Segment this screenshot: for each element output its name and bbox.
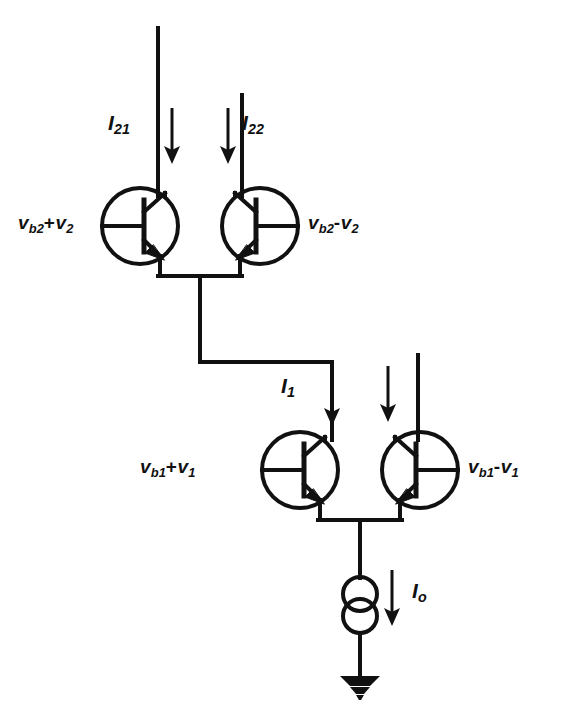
current-io-sub: o — [418, 589, 427, 605]
lower-left-base-v: v — [140, 456, 151, 477]
upper-left-term-v: v — [55, 212, 66, 233]
transistor-q11-collector-lead — [304, 437, 325, 456]
upper-left-base-op: + — [44, 212, 56, 233]
upper-left-base-v: v — [18, 212, 29, 233]
label-current-io: Io — [412, 580, 427, 601]
transistor-q22-collector-lead — [235, 193, 256, 212]
schematic-canvas — [0, 0, 575, 709]
label-upper-right-base-voltage: vb2-v2 — [308, 213, 359, 232]
circuit-schematic-figure: vb2+v2 vb2-v2 vb1+v1 vb1-v1 I21 I22 I1 I… — [0, 0, 575, 709]
lower-left-term-sub: 1 — [188, 465, 195, 480]
lower-right-term-sub: 1 — [511, 465, 518, 480]
upper-left-term-sub: 2 — [66, 221, 73, 236]
current-i22-sub: 22 — [248, 121, 264, 137]
transistor-q12-collector-lead — [395, 437, 416, 456]
current-source-circle-bottom — [343, 599, 377, 633]
label-lower-right-base-voltage: vb1-v1 — [468, 457, 519, 476]
lower-right-base-sub: b1 — [479, 465, 494, 480]
label-current-i22: I22 — [242, 112, 264, 133]
label-upper-left-base-voltage: vb2+v2 — [18, 213, 73, 232]
lower-left-base-sub: b1 — [151, 465, 166, 480]
upper-right-base-sub: b2 — [319, 221, 334, 236]
upper-right-term-v: v — [341, 212, 352, 233]
label-current-i21: I21 — [108, 112, 130, 133]
lower-left-base-op: + — [166, 456, 178, 477]
upper-right-base-op: - — [334, 212, 341, 233]
transistor-q21-collector-lead — [144, 193, 165, 212]
wire-group — [102, 28, 458, 679]
upper-right-base-v: v — [308, 212, 319, 233]
label-current-i1: I1 — [281, 375, 295, 396]
lower-right-base-v: v — [468, 456, 479, 477]
upper-left-base-sub: b2 — [29, 221, 44, 236]
label-lower-left-base-voltage: vb1+v1 — [140, 457, 195, 476]
upper-right-term-sub: 2 — [351, 221, 358, 236]
ground-symbol — [340, 676, 380, 700]
lower-right-base-op: - — [494, 456, 501, 477]
lower-left-term-v: v — [177, 456, 188, 477]
current-i21-sub: 21 — [114, 121, 130, 137]
lower-right-term-v: v — [501, 456, 512, 477]
current-i1-sub: 1 — [287, 384, 295, 400]
